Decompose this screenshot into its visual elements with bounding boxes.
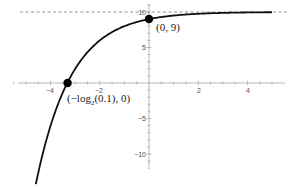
annot-prefix: (−log [67, 92, 91, 105]
y-tick-label: −10 [134, 151, 146, 158]
function-plot: −4 −2 2 4 10 5 −5 −10 (0, 9) (−log2(0.1)… [0, 0, 289, 187]
annot-suffix: (0.1), 0) [94, 92, 130, 105]
y-tick-label: 10 [138, 9, 146, 16]
y-tick-label: −5 [138, 115, 146, 122]
y-tick-label: 5 [142, 44, 146, 51]
point-x-intercept [63, 79, 71, 87]
point-y-intercept [145, 15, 153, 23]
annotation-x-intercept: (−log2(0.1), 0) [67, 92, 131, 107]
annotation-y-intercept: (0, 9) [156, 21, 180, 34]
x-tick-label: −4 [46, 87, 54, 94]
x-tick-label: 4 [246, 87, 250, 94]
x-tick-label: 2 [197, 87, 201, 94]
y-axis: 10 5 −5 −10 [134, 4, 151, 168]
